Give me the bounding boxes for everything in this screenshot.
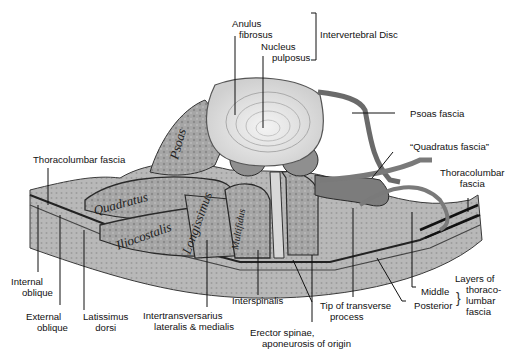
label-internal-oblique: Internal oblique	[11, 276, 53, 298]
label-thoracolumbar-fascia-right: Thoracolumbar fascia	[440, 167, 505, 189]
label-anulus-fibrosus: Anulus fibrosus	[232, 18, 273, 40]
label-interspinalis: Interspinalis	[232, 295, 283, 306]
label-external-oblique: External oblique	[26, 311, 68, 333]
label-nucleus-pulposus: Nucleus pulposus	[261, 41, 310, 63]
label-intervertebral-disc: Intervertebral Disc	[320, 29, 398, 40]
label-tip-of-transverse-process: Tip of transverse process	[320, 300, 391, 322]
label-latissimus-dorsi: Latissimus dorsi	[83, 311, 128, 333]
intervertebral-disc	[207, 78, 324, 166]
label-erector-spinae: Erector spinae, aponeurosis of origin	[250, 327, 351, 349]
label-posterior-layer: Posterior	[414, 300, 452, 311]
label-psoas-fascia: Psoas fascia	[410, 108, 464, 119]
label-thoracolumbar-fascia-left: Thoracolumbar fascia	[33, 154, 125, 165]
label-middle-layer: Middle	[421, 286, 449, 297]
label-intertransversarius: Intertransversarius lateralis & medialis	[143, 310, 234, 332]
label-quadratus-fascia: “Quadratus fascia”	[410, 141, 489, 152]
anatomy-figure: Psoas Quadratus Iliocostalis Longissimus…	[0, 0, 517, 352]
label-layers-of-thoracolumbar-fascia: Layers of thoraco- lumbar fascia	[455, 273, 501, 317]
